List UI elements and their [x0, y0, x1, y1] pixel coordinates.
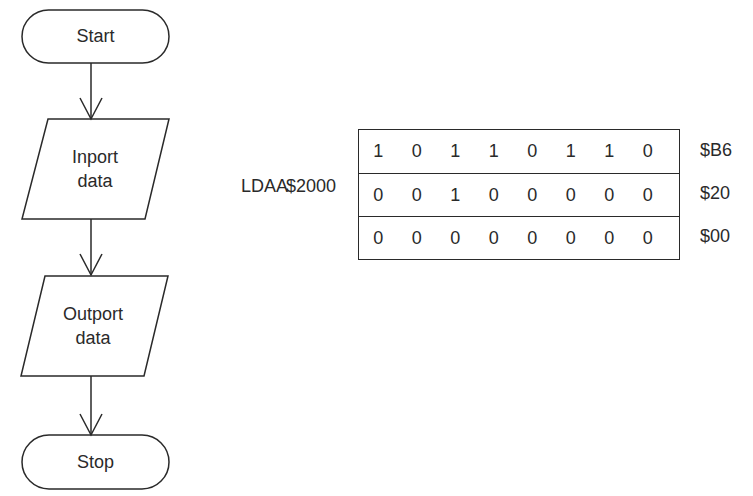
memory-row: 0 0 0 0 0 0 0 0: [359, 216, 679, 259]
stop-label: Stop: [22, 450, 169, 474]
bit-0: 0: [629, 228, 668, 249]
memory-table: 1 0 1 1 0 1 1 0 0 0 1 0 0 0 0 0 0 0 0 0 …: [358, 129, 680, 260]
instruction-mnemonic: LDAA: [241, 176, 288, 197]
bit-7: 0: [359, 185, 398, 206]
instruction-operand: $2000: [286, 176, 336, 197]
bit-6: 0: [398, 228, 437, 249]
memory-row: 0 0 1 0 0 0 0 0: [359, 173, 679, 216]
bit-3: 0: [513, 141, 552, 162]
bit-2: 0: [552, 185, 591, 206]
inport-label-line-2: data: [30, 169, 160, 193]
bit-4: 1: [475, 141, 514, 162]
bit-3: 0: [513, 228, 552, 249]
outport-label-line-2: data: [28, 326, 158, 350]
bit-0: 0: [629, 141, 668, 162]
bit-7: 0: [359, 228, 398, 249]
start-label: Start: [22, 24, 169, 48]
bit-1: 0: [590, 185, 629, 206]
bit-4: 0: [475, 185, 514, 206]
bit-2: 1: [552, 141, 591, 162]
hex-value-row-1: $B6: [700, 140, 732, 161]
bit-6: 0: [398, 141, 437, 162]
outport-label: Outport data: [28, 302, 158, 350]
bit-7: 1: [359, 141, 398, 162]
bit-6: 0: [398, 185, 437, 206]
hex-value-row-2: $20: [700, 183, 730, 204]
bit-1: 1: [590, 141, 629, 162]
bit-0: 0: [629, 185, 668, 206]
inport-label-line-1: Inport: [30, 145, 160, 169]
bit-5: 1: [436, 185, 475, 206]
memory-row: 1 0 1 1 0 1 1 0: [359, 130, 679, 173]
inport-label: Inport data: [30, 145, 160, 193]
outport-label-line-1: Outport: [28, 302, 158, 326]
bit-3: 0: [513, 185, 552, 206]
bit-1: 0: [590, 228, 629, 249]
bit-4: 0: [475, 228, 514, 249]
hex-value-row-3: $00: [700, 226, 730, 247]
bit-5: 1: [436, 141, 475, 162]
bit-5: 0: [436, 228, 475, 249]
bit-2: 0: [552, 228, 591, 249]
